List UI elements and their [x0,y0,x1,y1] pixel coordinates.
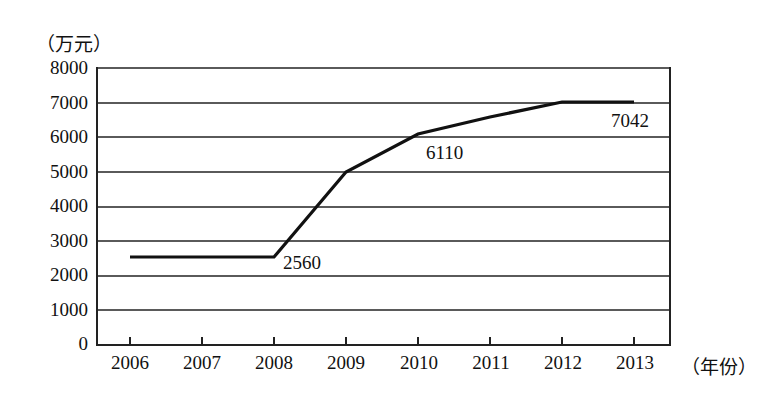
plot-area [0,0,770,403]
x-axis-ticks [130,337,634,345]
line-chart: （万元） （年份） 8000 7000 6000 5000 4000 3000 … [0,0,770,403]
gridlines [97,68,670,310]
data-line [130,102,634,257]
